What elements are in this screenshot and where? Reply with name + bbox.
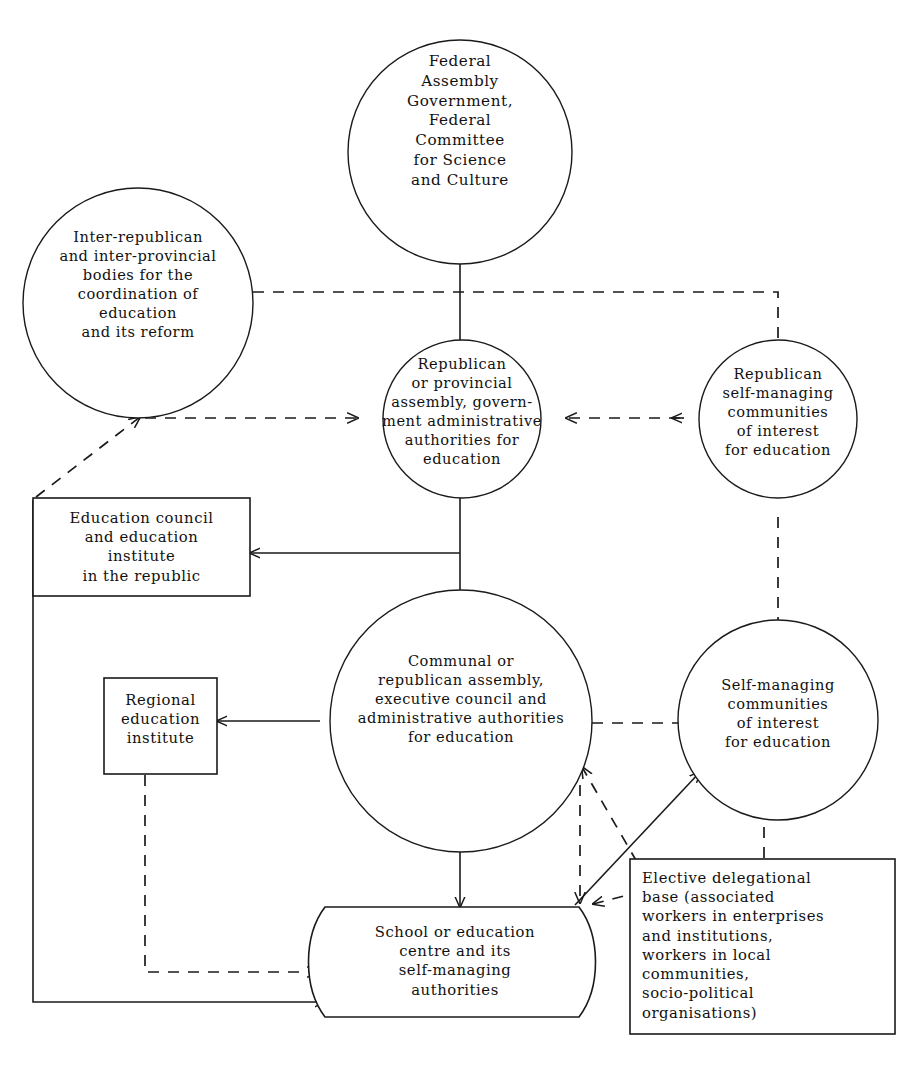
republican-self-managing-communities-node[interactable] bbox=[699, 340, 857, 498]
diagram-canvas: Federal Assembly Government, Federal Com… bbox=[0, 0, 920, 1092]
self-managing-communities-node[interactable] bbox=[678, 620, 878, 820]
education-council-institute-box[interactable] bbox=[33, 498, 250, 596]
edge-regional-institute-to-school bbox=[145, 775, 318, 972]
edge-education-council-to-interrepublican bbox=[36, 417, 140, 497]
edge-interrepublican-to-republican-communities bbox=[233, 292, 778, 340]
inter-republican-bodies-node[interactable] bbox=[23, 188, 253, 418]
republican-provincial-assembly-node[interactable] bbox=[383, 340, 541, 498]
federal-assembly-node[interactable] bbox=[348, 40, 572, 264]
communal-republican-assembly-node[interactable] bbox=[330, 590, 592, 852]
diagram-svg bbox=[0, 0, 920, 1092]
regional-education-institute-box[interactable] bbox=[104, 678, 217, 774]
school-education-centre-box[interactable] bbox=[309, 907, 596, 1017]
elective-delegational-base-box[interactable] bbox=[630, 859, 895, 1034]
